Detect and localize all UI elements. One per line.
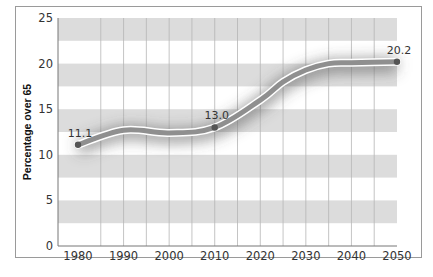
data-point-marker: [212, 124, 218, 130]
x-tick-label: 2010: [200, 249, 229, 263]
stripe-band: [58, 200, 397, 223]
y-tick-label: 20: [38, 57, 53, 71]
data-point-label: 11.1: [68, 127, 93, 140]
x-tick-labels: 19801990200020102020203020402050: [63, 249, 411, 263]
y-tick-label: 25: [38, 11, 53, 25]
data-point-label: 13.0: [204, 109, 229, 122]
data-point-marker: [394, 59, 400, 65]
x-tick-label: 1990: [109, 249, 138, 263]
y-tick-label: 5: [46, 193, 53, 207]
x-tick-label: 2030: [291, 249, 320, 263]
x-tick-label: 2020: [246, 249, 275, 263]
data-point-label: 20.2: [387, 44, 412, 57]
x-tick-label: 2000: [155, 249, 184, 263]
line-chart: 0510152025 19801990200020102020203020402…: [0, 0, 433, 277]
y-tick-labels: 0510152025: [38, 11, 53, 253]
x-tick-label: 2040: [337, 249, 366, 263]
x-tick-label: 2050: [382, 249, 411, 263]
y-tick-label: 0: [46, 239, 53, 253]
y-axis-label: Percentage over 65: [21, 84, 33, 180]
stripe-band: [58, 155, 397, 178]
y-tick-label: 10: [38, 148, 53, 162]
x-tick-label: 1980: [63, 249, 92, 263]
stripe-band: [58, 18, 397, 41]
y-tick-label: 15: [38, 102, 53, 116]
data-point-marker: [75, 142, 81, 148]
